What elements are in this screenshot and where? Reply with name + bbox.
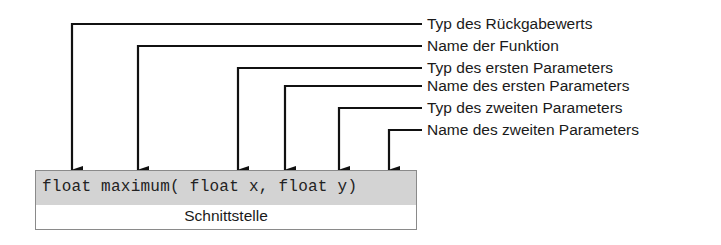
- function-signature: float maximum( float x, float y): [42, 178, 357, 196]
- label-param2-type: Typ des zweiten Parameters: [427, 99, 623, 117]
- signature-band: float maximum( float x, float y): [36, 171, 416, 205]
- arrow-param1-name: [285, 86, 422, 170]
- arrow-param1-type: [238, 68, 422, 170]
- interface-box: float maximum( float x, float y) Schnitt…: [35, 170, 417, 230]
- label-param1-name: Name des ersten Parameters: [427, 77, 629, 95]
- arrow-param2-name: [389, 130, 422, 170]
- interface-caption: Schnittstelle: [36, 207, 416, 225]
- label-param2-name: Name des zweiten Parameters: [427, 121, 639, 139]
- label-function-name: Name der Funktion: [427, 37, 559, 55]
- label-param1-type: Typ des ersten Parameters: [427, 59, 613, 77]
- arrow-param2-type: [339, 108, 422, 170]
- label-return-type: Typ des Rückgabewerts: [427, 15, 592, 33]
